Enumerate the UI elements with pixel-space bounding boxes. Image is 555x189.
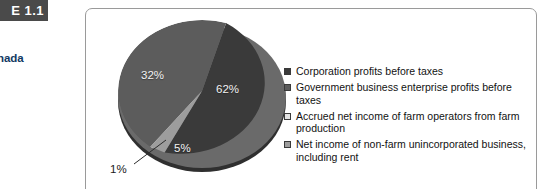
pie-face bbox=[118, 20, 286, 162]
legend-item-government-business-enterprise[interactable]: Government business enterprise profits b… bbox=[284, 81, 534, 106]
legend-item-label: Corporation profits before taxes bbox=[296, 65, 443, 78]
pie-chart: 62% 32% 5% 1% bbox=[108, 12, 298, 189]
figure-margin-column: E 1.1 rofit n Canada bbox=[0, 0, 85, 189]
pie-label-62-percent: 62% bbox=[216, 83, 239, 95]
figure-number-banner: E 1.1 bbox=[0, 0, 48, 21]
pie-slices-svg bbox=[118, 20, 286, 162]
legend-item-label: Net income of non-farm unincorporated bu… bbox=[296, 138, 534, 163]
figure-caption-line-1: rofit bbox=[0, 36, 84, 51]
chart-legend: Corporation profits before taxes Governm… bbox=[284, 65, 534, 167]
pie-label-32-percent: 32% bbox=[141, 69, 164, 81]
pie-label-1-percent: 1% bbox=[110, 163, 127, 175]
chart-panel: 62% 32% 5% 1% Corporation profits before… bbox=[85, 8, 537, 189]
legend-item-accrued-farm-income[interactable]: Accrued net income of farm operators fro… bbox=[284, 110, 534, 135]
figure-caption-line-2: n Canada bbox=[0, 51, 84, 66]
legend-item-label: Government business enterprise profits b… bbox=[296, 81, 534, 106]
legend-item-label: Accrued net income of farm operators fro… bbox=[296, 110, 534, 135]
legend-swatch-icon bbox=[284, 141, 291, 148]
legend-swatch-icon bbox=[284, 113, 291, 120]
legend-item-nonfarm-unincorporated[interactable]: Net income of non-farm unincorporated bu… bbox=[284, 138, 534, 163]
figure-caption: rofit n Canada bbox=[0, 36, 84, 65]
legend-swatch-icon bbox=[284, 68, 291, 75]
legend-swatch-icon bbox=[284, 84, 291, 91]
legend-item-corporation-profits[interactable]: Corporation profits before taxes bbox=[284, 65, 534, 78]
pie-label-5-percent: 5% bbox=[174, 142, 191, 154]
